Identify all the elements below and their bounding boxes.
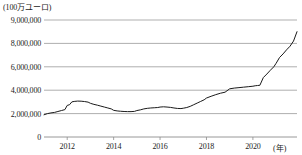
x-tick-label: 2014 bbox=[106, 142, 121, 151]
x-axis-title: (年) bbox=[273, 142, 286, 153]
x-tick-label: 2020 bbox=[245, 142, 260, 151]
chart-container: (100万ユーロ) 02,000,0004,000,0006,000,0008,… bbox=[0, 0, 302, 155]
x-tick-label: 2012 bbox=[60, 142, 75, 151]
x-tick-label: 2018 bbox=[199, 142, 214, 151]
x-tick-label: 2016 bbox=[152, 142, 167, 151]
x-axis-labels: 20122014201620182020 bbox=[0, 0, 302, 155]
